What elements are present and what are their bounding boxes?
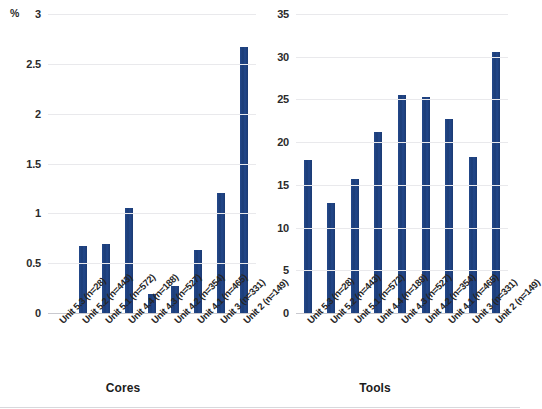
bar-series-tools [296, 14, 508, 313]
y-axis-tick-label: 15 [277, 179, 289, 191]
gridline [296, 14, 508, 15]
y-axis-tick-label: 3 [35, 8, 41, 20]
gridline [48, 14, 256, 15]
gridline [48, 164, 256, 165]
gridline [48, 64, 256, 65]
y-axis-tick-label: 20 [277, 136, 289, 148]
x-axis-title-cores: Cores [0, 381, 254, 395]
gridline [48, 114, 256, 115]
gridline [296, 57, 508, 58]
y-axis-tick-label: 10 [277, 222, 289, 234]
y-axis-tick-label: 2.5 [26, 58, 41, 70]
chart-panel-cores: % 00.511.522.53 Unit 5.3 (n=28)Unit 5.2 … [0, 0, 262, 409]
gridline [48, 263, 256, 264]
y-axis-tick-label: 1 [35, 207, 41, 219]
y-axis-tick-label: 2 [35, 108, 41, 120]
y-axis-tick-label: 1.5 [26, 158, 41, 170]
gridline [48, 213, 256, 214]
plot-area-tools [296, 14, 508, 313]
y-axis-tick-label: 30 [277, 51, 289, 63]
chart-panel-tools: 05101520253035 Unit 5.3 (n=28)Unit 5.2 (… [262, 0, 520, 409]
gridline [296, 142, 508, 143]
footer-rule [0, 407, 520, 408]
gridline [296, 185, 508, 186]
y-axis-tick-label: 25 [277, 93, 289, 105]
bar [304, 160, 312, 313]
y-axis-tick-label: 35 [277, 8, 289, 20]
y-axis-tick-label: 0.5 [26, 257, 41, 269]
gridline [296, 99, 508, 100]
plot-area-cores [48, 14, 256, 313]
y-axis-tick-label: 5 [283, 264, 289, 276]
x-axis-title-tools: Tools [246, 381, 504, 395]
gridline [296, 228, 508, 229]
gridline [296, 270, 508, 271]
